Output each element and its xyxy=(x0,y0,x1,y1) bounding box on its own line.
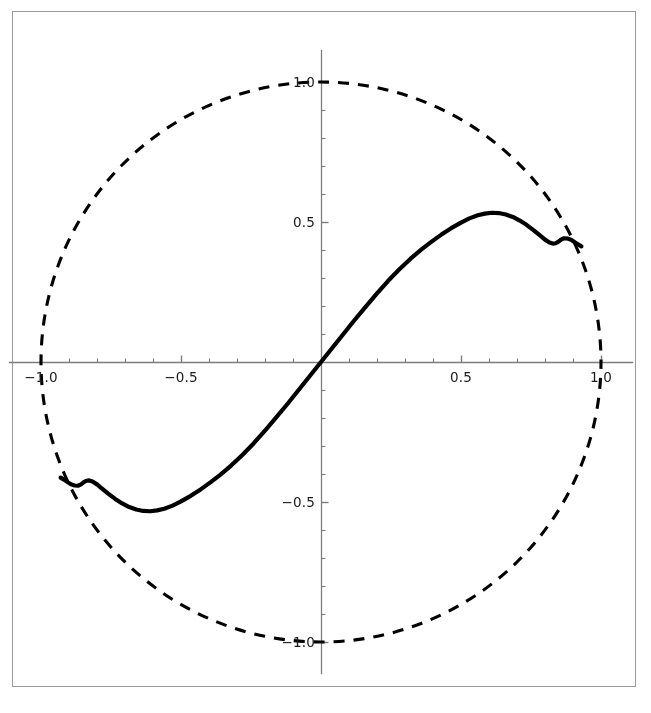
x-tick-label--0.5: −0.5 xyxy=(164,369,198,385)
x-tick-label-0.5: 0.5 xyxy=(450,369,472,385)
y-tick-label-1.0: 1.0 xyxy=(293,74,315,90)
y-tick-label-0.5: 0.5 xyxy=(293,214,315,230)
polar-plot-canvas xyxy=(0,0,651,713)
figure-root: −1.0−0.50.51.01.00.5−0.5−1.0 xyxy=(0,0,651,713)
x-tick-label--1.0: −1.0 xyxy=(24,369,58,385)
x-tick-label-1.0: 1.0 xyxy=(590,369,612,385)
y-tick-label--1.0: −1.0 xyxy=(281,634,315,650)
y-tick-label--0.5: −0.5 xyxy=(281,494,315,510)
